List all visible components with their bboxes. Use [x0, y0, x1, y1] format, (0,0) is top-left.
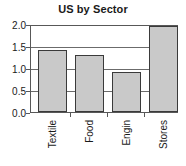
- y-axis-tick-label-4: 2.0: [0, 21, 26, 31]
- y-axis-tick-label-3: 1.5: [0, 43, 26, 53]
- y-axis-tick-label-2: 1.0: [0, 65, 26, 75]
- x-axis-label-engin: Engin: [122, 120, 132, 146]
- bar-engin: [112, 72, 141, 112]
- bar-chart: US by Sector 0.0 0.5 1.0 1.5 2.0 Textile…: [0, 0, 186, 166]
- x-axis-label-textile: Textile: [48, 120, 58, 148]
- plot-area: [30, 25, 178, 113]
- bar-textile: [38, 50, 67, 112]
- bar-food: [75, 55, 104, 112]
- x-axis-tick-mark-1: [70, 113, 71, 117]
- chart-title: US by Sector: [0, 3, 186, 15]
- y-axis-tick-mark-0: [26, 113, 30, 114]
- x-axis-label-stores: Stores: [159, 120, 169, 149]
- x-axis-label-food: Food: [85, 120, 95, 143]
- x-axis-tick-mark-2: [107, 113, 108, 117]
- bar-stores: [149, 26, 178, 112]
- x-axis-tick-mark-3: [144, 113, 145, 117]
- y-axis-tick-label-0: 0.0: [0, 109, 26, 119]
- y-axis-tick-label-1: 0.5: [0, 87, 26, 97]
